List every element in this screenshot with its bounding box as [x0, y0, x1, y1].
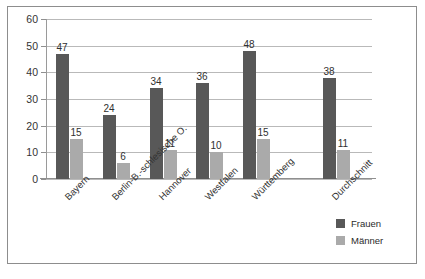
y-tick-label: 30: [26, 94, 38, 105]
bar-value-label: 15: [70, 128, 81, 138]
bar-value-label: 6: [120, 152, 126, 162]
bar-value-label: 48: [243, 40, 254, 50]
chart-frame: 0102030405060 47152463411361048153811 Ba…: [7, 6, 417, 264]
bar-value-label: 10: [210, 141, 221, 151]
bar-group: 246: [103, 19, 130, 179]
bar-männer: 15: [70, 139, 83, 179]
bar-frauen: 38: [323, 78, 336, 179]
legend-swatch-icon: [336, 219, 345, 228]
y-tick-label: 0: [32, 174, 38, 185]
plot-area: 0102030405060 47152463411361048153811 Ba…: [46, 19, 372, 179]
legend-label: Frauen: [351, 219, 381, 229]
y-tick-label: 10: [26, 147, 38, 158]
y-tick-label: 20: [26, 120, 38, 131]
y-tick-mark: [41, 179, 46, 180]
bar-frauen: 47: [56, 54, 69, 179]
bar-group: 4715: [56, 19, 83, 179]
bar-männer: 15: [257, 139, 270, 179]
bar-frauen: 36: [196, 83, 209, 179]
bar-value-label: 47: [56, 43, 67, 53]
y-tick-label: 40: [26, 67, 38, 78]
y-axis-line: [46, 19, 47, 179]
bar-value-label: 36: [196, 72, 207, 82]
bar-frauen: 48: [243, 51, 256, 179]
y-tick-label: 60: [26, 14, 38, 25]
chart-legend: FrauenMänner: [336, 219, 383, 252]
bar-value-label: 11: [338, 139, 348, 149]
legend-swatch-icon: [336, 236, 345, 245]
bar-value-label: 34: [150, 77, 161, 87]
bar-group: 3610: [196, 19, 223, 179]
bar-group: 4815: [243, 19, 270, 179]
bar-value-label: 38: [323, 67, 334, 77]
legend-item[interactable]: Männer: [336, 236, 383, 246]
legend-item[interactable]: Frauen: [336, 219, 383, 229]
bar-frauen: 24: [103, 115, 116, 179]
bar-group: 3811: [323, 19, 350, 179]
bar-value-label: 24: [103, 104, 114, 114]
y-tick-label: 50: [26, 40, 38, 51]
bar-value-label: 15: [257, 128, 268, 138]
gridline: [46, 179, 372, 180]
legend-label: Männer: [351, 236, 383, 246]
